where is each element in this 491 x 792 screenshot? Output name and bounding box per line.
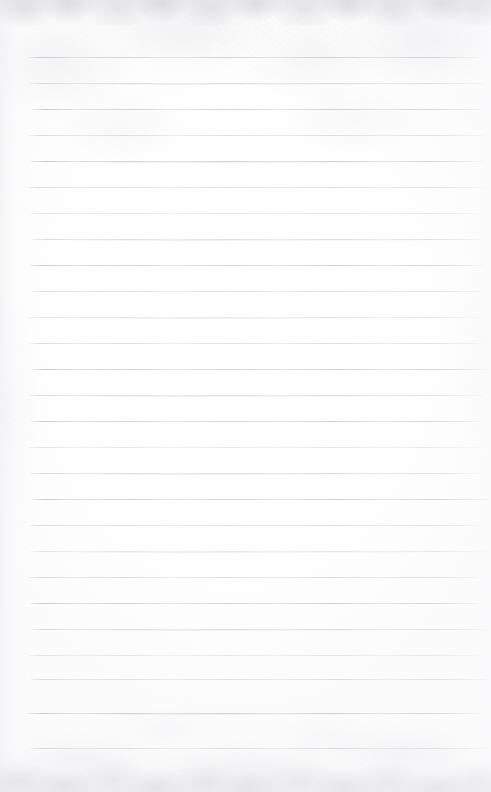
scanned-page (0, 0, 491, 792)
page-writing-area (30, 57, 484, 749)
